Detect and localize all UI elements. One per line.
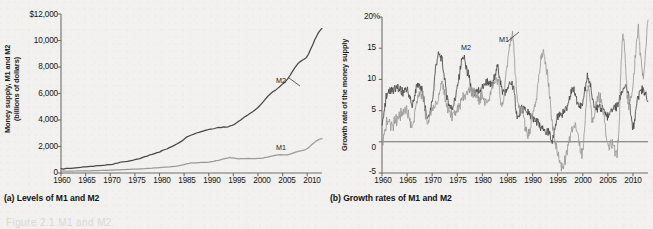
panel-a-ytick-12000: $12,000 <box>18 10 58 19</box>
panel-b-ytick-10: 10 <box>352 74 376 83</box>
panel-a-ytick-4000: 4,000 <box>18 115 58 124</box>
panel-a-xtick-1985: 1985 <box>173 176 201 185</box>
panel-b-caption: (b) Growth rates of M1 and M2 <box>330 193 452 203</box>
panel-b-xtick-1965: 1965 <box>394 176 422 185</box>
panel-b-series-label-m2: M2 <box>461 43 471 52</box>
panel-b-ytick-5: 5 <box>352 105 376 114</box>
panel-b-ytick-neg5: -5 <box>352 167 376 176</box>
panel-a-xtick-1975: 1975 <box>123 176 151 185</box>
panel-a-series-label-m1: M1 <box>276 143 286 152</box>
panel-b-xtick-2000: 2000 <box>569 176 597 185</box>
panel-a-ytick-2000: 2,000 <box>18 142 58 151</box>
panel-b-xtick-1970: 1970 <box>419 176 447 185</box>
panel-a-xtick-1980: 1980 <box>148 176 176 185</box>
panel-a-xtick-1995: 1995 <box>223 176 251 185</box>
panel-a-xtick-2010: 2010 <box>298 176 326 185</box>
panel-a-xtick-2005: 2005 <box>273 176 301 185</box>
panel-a-xtick-2000: 2000 <box>248 176 276 185</box>
panel-a-xtick-1990: 1990 <box>198 176 226 185</box>
panel-b-xtick-1975: 1975 <box>444 176 472 185</box>
panel-b-xtick-1960: 1960 <box>369 176 397 185</box>
panel-a-ytick-10000: 10,000 <box>18 36 58 45</box>
panel-b-xtick-1990: 1990 <box>519 176 547 185</box>
panel-b-y-axis-title: Growth rate of the money supply <box>340 16 352 174</box>
panel-b-xtick-1995: 1995 <box>544 176 572 185</box>
figure-number-ghost: Figure 2.1 M1 and M2 <box>6 217 112 228</box>
panel-a-ytick-8000: 8,000 <box>18 62 58 71</box>
panel-b-ytick-0: 0 <box>352 143 376 152</box>
panel-b-ytick-20: 20% <box>352 12 380 21</box>
panel-a-xtick-1970: 1970 <box>98 176 126 185</box>
panel-b-xtick-1980: 1980 <box>469 176 497 185</box>
money-supply-figure: Money supply, M1 and M2 (billions of dol… <box>0 0 653 229</box>
panel-a-caption: (a) Levels of M1 and M2 <box>4 193 99 203</box>
panel-b-xtick-2005: 2005 <box>594 176 622 185</box>
panel-a-series-label-m2: M2 <box>276 76 286 85</box>
panel-a-ytick-6000: 6,000 <box>18 89 58 98</box>
panel-b-ytick-15: 15 <box>352 43 376 52</box>
panel-a-levels: Money supply, M1 and M2 (billions of dol… <box>0 0 330 229</box>
panel-a-xtick-1960: 1960 <box>48 176 76 185</box>
panel-a-xtick-1965: 1965 <box>73 176 101 185</box>
panel-b-xtick-1985: 1985 <box>494 176 522 185</box>
panel-b-xtick-2010: 2010 <box>619 176 647 185</box>
panel-b-series-label-m1: M1 <box>499 35 509 44</box>
